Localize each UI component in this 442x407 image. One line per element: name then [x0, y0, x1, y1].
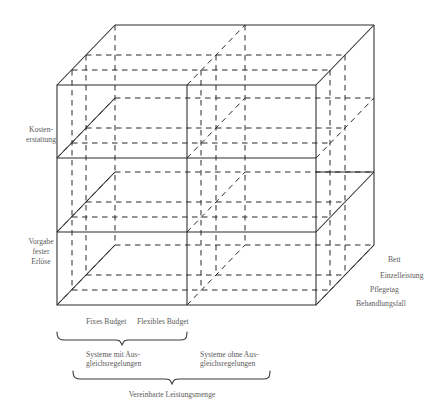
vertical-axis-labels: Kosten- erstattung Vorgabe fester Erlöse: [26, 125, 56, 266]
brace-level-2-group: Vereinbarte Leistungsmenge: [73, 371, 270, 399]
label-systeme-mit-ausgleich-line2: gleichsregelungen: [86, 359, 141, 368]
label-systeme-ohne-ausgleich-line2: gleichsregelungen: [200, 359, 255, 368]
label-pflegetag: Pflegetag: [370, 285, 399, 294]
label-einzelleistung: Einzelleistung: [380, 271, 424, 280]
cube-diagram: Kosten- erstattung Vorgabe fester Erlöse…: [0, 0, 442, 407]
right-receding-edge-level2: [316, 172, 374, 232]
label-behandlungsfall: Behandlungsfall: [356, 299, 406, 308]
label-kostenerstattung-line2: erstattung: [26, 135, 56, 144]
brace-level-1-group: Systeme mit Aus- gleichsregelungen Syste…: [57, 332, 259, 368]
label-vorgabe-line2: fester: [33, 247, 50, 256]
label-bett: Bett: [388, 255, 402, 264]
right-receding-edge-bottom: [316, 245, 374, 305]
label-flexibles-budget: Flexibles Budget: [137, 317, 190, 326]
label-vorgabe-line1: Vorgabe: [28, 237, 54, 246]
brace-level-2: [73, 371, 270, 384]
horizontal-axis-labels: Fixes Budget Flexibles Budget: [86, 317, 190, 326]
label-vereinbarte-leistungsmenge: Vereinbarte Leistungsmenge: [129, 390, 216, 399]
brace-level-1: [57, 332, 187, 345]
label-vorgabe-line3: Erlöse: [31, 257, 51, 266]
depth-axis-labels: Bett Einzelleistung Pflegetag Behandlung…: [356, 255, 424, 308]
label-fixes-budget: Fixes Budget: [86, 317, 127, 326]
label-systeme-ohne-ausgleich-line1: Systeme ohne Aus-: [200, 350, 259, 359]
label-systeme-mit-ausgleich-line1: Systeme mit Aus-: [86, 350, 140, 359]
label-kostenerstattung-line1: Kosten-: [29, 125, 54, 134]
hidden-edges-group: [57, 25, 374, 305]
